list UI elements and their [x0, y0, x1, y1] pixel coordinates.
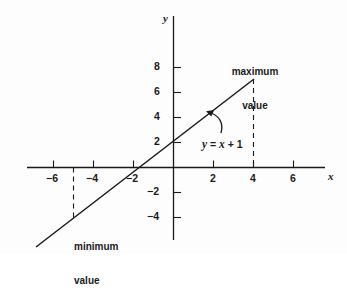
y-tick-label-8: 8	[154, 61, 160, 73]
y-tick-label-6: 6	[154, 86, 160, 98]
x-tick-label-2: 2	[210, 173, 216, 185]
equation-pointer-arrow	[206, 110, 222, 133]
equation-label: y = x + 1	[202, 138, 243, 151]
maximum-value-line1: maximum	[226, 66, 284, 77]
minimum-value-line1: minimum	[74, 241, 138, 252]
y-tick-label-4: 4	[154, 111, 160, 123]
minimum-value-annotation: minimum value	[74, 219, 138, 288]
x-tick-label-neg2: −2	[126, 173, 138, 185]
maximum-value-line2: value	[226, 100, 284, 111]
x-tick-label-neg4: −4	[86, 173, 98, 185]
y-tick-label-neg4: −4	[147, 211, 159, 223]
maximum-value-annotation: maximum value	[226, 44, 284, 134]
equation-equals: =	[207, 138, 219, 150]
x-tick-label-neg6: −6	[46, 173, 58, 185]
function-line	[36, 79, 254, 247]
y-axis-label: y	[163, 12, 168, 24]
x-axis-label: x	[328, 170, 334, 182]
y-tick-label-2: 2	[154, 136, 160, 148]
x-tick-label-6: 6	[290, 173, 296, 185]
equation-tail: + 1	[225, 138, 243, 150]
x-tick-label-4: 4	[250, 173, 256, 185]
minimum-value-line2: value	[74, 275, 138, 286]
y-tick-label-neg2: −2	[147, 186, 159, 198]
y-axis-ticks	[174, 68, 182, 218]
